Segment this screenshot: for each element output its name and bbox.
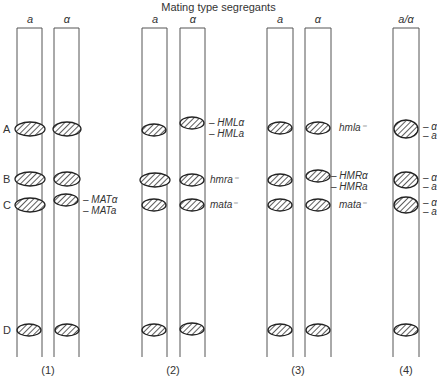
- panel-number: (2): [158, 364, 188, 376]
- band-letter-b: B: [3, 173, 10, 185]
- gene-label: – HMRa: [331, 182, 368, 192]
- gene-label: – MATa: [83, 206, 116, 216]
- chromosome-1alpha: [54, 28, 79, 357]
- panel-number: (1): [33, 364, 63, 376]
- chromosome-2a: [142, 28, 167, 357]
- panel-number: (3): [283, 364, 313, 376]
- gene-label: mata⁻: [339, 200, 366, 210]
- column-header: α: [180, 13, 206, 25]
- chromosome-3alpha: [305, 28, 331, 357]
- chromosome-1a: [17, 28, 42, 357]
- chromosome-diagram: [0, 0, 437, 379]
- gene-label: – a: [423, 131, 437, 141]
- band-letter-a: A: [3, 123, 10, 135]
- column-header: α: [305, 13, 331, 25]
- gene-label: hmla⁻: [339, 123, 366, 133]
- band-letter-d: D: [3, 324, 11, 336]
- gene-label: – HMRα: [331, 171, 368, 181]
- gene-label: – a: [423, 182, 437, 192]
- panel-number: (4): [391, 364, 421, 376]
- chromosome-4: [393, 28, 419, 357]
- column-header: α: [54, 13, 80, 25]
- column-header: a: [17, 13, 43, 25]
- gene-label: hmra⁻: [210, 175, 238, 185]
- chromosome-3a: [267, 28, 293, 357]
- column-header: a/α: [393, 13, 419, 25]
- gene-label: – a: [423, 207, 437, 217]
- column-header: a: [142, 13, 168, 25]
- column-header: a: [267, 13, 293, 25]
- gene-label: – HMLa: [209, 129, 244, 139]
- figure-title: Mating type segregants: [0, 1, 437, 13]
- gene-label: – HMLα: [209, 118, 244, 128]
- band-letter-c: C: [3, 199, 11, 211]
- gene-label: mata⁻: [210, 200, 237, 210]
- gene-label: – MATα: [83, 195, 117, 205]
- chromosome-2alpha: [180, 28, 205, 357]
